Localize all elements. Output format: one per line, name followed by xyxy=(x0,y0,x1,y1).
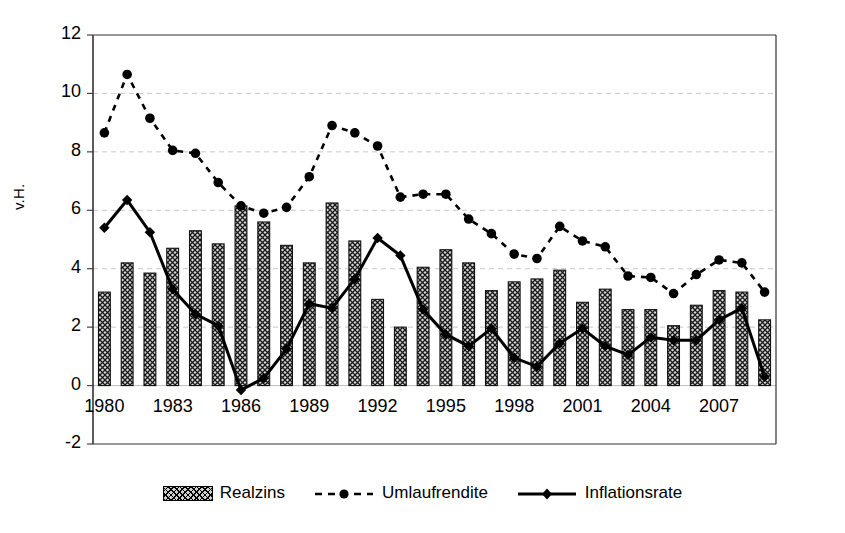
bar xyxy=(668,326,680,386)
data-point-umlaufrendite xyxy=(122,70,132,80)
data-point-umlaufrendite xyxy=(236,201,246,211)
data-point-umlaufrendite xyxy=(646,273,656,283)
legend-label-realzins: Realzins xyxy=(220,483,285,503)
data-point-umlaufrendite xyxy=(509,249,519,259)
x-tick-label: 1986 xyxy=(206,396,276,417)
legend-item-umlaufrendite: Umlaufrendite xyxy=(313,483,488,503)
data-point-umlaufrendite xyxy=(760,287,770,297)
data-point-umlaufrendite xyxy=(213,178,223,188)
y-tick-label: -2 xyxy=(37,432,81,453)
y-tick-marks xyxy=(87,35,93,444)
data-point-umlaufrendite xyxy=(304,172,314,182)
data-point-umlaufrendite xyxy=(464,214,474,224)
bar xyxy=(713,291,725,386)
data-point-umlaufrendite xyxy=(487,229,497,239)
bar xyxy=(349,241,361,386)
x-tick-label: 1983 xyxy=(138,396,208,417)
legend-label-umlaufrendite: Umlaufrendite xyxy=(382,483,488,503)
data-point-umlaufrendite xyxy=(600,242,610,252)
data-point-umlaufrendite xyxy=(145,113,155,123)
data-point-umlaufrendite xyxy=(532,254,542,264)
legend-item-realzins: Realzins xyxy=(163,483,285,503)
bar xyxy=(622,310,634,386)
bar xyxy=(372,299,384,385)
legend-label-inflationsrate: Inflationsrate xyxy=(585,483,682,503)
y-tick-label: 6 xyxy=(37,198,81,219)
bar xyxy=(326,203,338,386)
bar xyxy=(554,270,566,385)
bar xyxy=(167,248,179,385)
data-point-umlaufrendite xyxy=(396,192,406,202)
data-point-umlaufrendite xyxy=(282,203,292,213)
x-tick-label: 2004 xyxy=(616,396,686,417)
data-point-umlaufrendite xyxy=(418,189,428,199)
bar xyxy=(417,267,429,385)
data-point-umlaufrendite xyxy=(327,121,337,131)
data-point-umlaufrendite xyxy=(555,222,565,232)
bar-swatch-icon xyxy=(163,486,213,501)
y-tick-label: 2 xyxy=(37,315,81,336)
bar xyxy=(303,263,315,386)
data-point-umlaufrendite xyxy=(578,236,588,246)
bar xyxy=(645,310,657,386)
data-point-inflationsrate xyxy=(236,385,246,395)
y-tick-label: 4 xyxy=(37,257,81,278)
bar xyxy=(440,250,452,386)
bar xyxy=(258,222,270,386)
x-tick-label: 1995 xyxy=(411,396,481,417)
bar xyxy=(121,263,133,386)
bar xyxy=(98,292,110,385)
data-point-umlaufrendite xyxy=(100,128,110,138)
bar xyxy=(463,263,475,386)
data-point-umlaufrendite xyxy=(623,271,633,281)
chart-canvas: v.H. -2024681012 19801983198619891992199… xyxy=(0,0,845,533)
bar xyxy=(599,289,611,385)
y-tick-label: 10 xyxy=(37,81,81,102)
data-point-umlaufrendite xyxy=(168,146,178,156)
x-tick-label: 1992 xyxy=(343,396,413,417)
bar xyxy=(212,244,224,386)
x-tick-label: 1989 xyxy=(274,396,344,417)
data-point-umlaufrendite xyxy=(259,208,269,218)
chart-legend: Realzins Umlaufrendite I xyxy=(0,483,845,503)
data-point-umlaufrendite xyxy=(191,149,201,159)
x-tick-label: 1998 xyxy=(479,396,549,417)
chart-plot-svg xyxy=(0,0,845,533)
dashed-circle-swatch-icon xyxy=(313,486,375,500)
bar xyxy=(485,291,497,386)
chart-root: v.H. -2024681012 19801983198619891992199… xyxy=(0,0,845,533)
solid-diamond-swatch-icon xyxy=(516,486,578,500)
x-tick-label: 2001 xyxy=(547,396,617,417)
legend-item-inflationsrate: Inflationsrate xyxy=(516,483,682,503)
data-point-umlaufrendite xyxy=(737,258,747,268)
y-tick-label: 8 xyxy=(37,140,81,161)
y-tick-label: 0 xyxy=(37,374,81,395)
bar xyxy=(235,206,247,386)
bar xyxy=(281,245,293,385)
x-tick-label: 2007 xyxy=(684,396,754,417)
data-point-umlaufrendite xyxy=(669,289,679,299)
bar xyxy=(394,327,406,385)
data-point-umlaufrendite xyxy=(714,255,724,265)
y-tick-label: 12 xyxy=(37,23,81,44)
bar xyxy=(508,282,520,386)
bar xyxy=(577,302,589,385)
data-point-umlaufrendite xyxy=(441,189,451,199)
bar xyxy=(144,273,156,385)
data-point-umlaufrendite xyxy=(350,128,360,138)
x-tick-label: 1980 xyxy=(69,396,139,417)
data-point-umlaufrendite xyxy=(373,141,383,151)
data-point-umlaufrendite xyxy=(692,270,702,280)
